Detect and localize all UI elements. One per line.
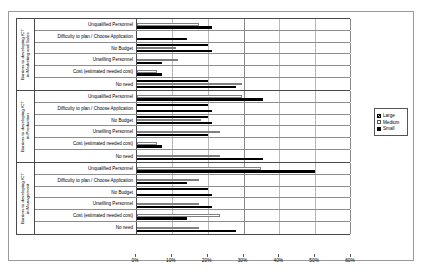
category-label: No need xyxy=(35,150,136,162)
bar-small xyxy=(137,110,212,113)
x-axis-tick-label: 20% xyxy=(202,258,212,263)
gridline xyxy=(350,138,351,149)
category-label: Cost (estimated needed cost) xyxy=(35,66,136,77)
category-label: Unwilling Personnel xyxy=(35,54,136,65)
legend-swatch-medium xyxy=(377,120,381,124)
gridline xyxy=(350,54,351,65)
row-plot xyxy=(136,222,350,234)
legend-item[interactable]: Small xyxy=(377,126,405,131)
legend-item[interactable]: Large xyxy=(377,113,405,118)
category-label: No Budget xyxy=(35,187,136,198)
row-plot xyxy=(136,163,350,174)
bar-stack xyxy=(137,175,350,186)
gridline xyxy=(350,163,351,174)
bar-stack xyxy=(137,126,350,137)
row-plot xyxy=(136,126,350,137)
category-label: Cost (estimated needed cost) xyxy=(35,210,136,221)
category-label-text: No Budget xyxy=(111,46,133,51)
chart-row: No Budget xyxy=(35,187,350,199)
category-label: Unwilling Personnel xyxy=(35,126,136,137)
x-axis-tick-label: 30% xyxy=(238,258,248,263)
legend-label: Small xyxy=(383,126,395,131)
x-axis-tick-label: 50% xyxy=(309,258,319,263)
chart-row: No need xyxy=(35,78,350,90)
row-plot xyxy=(136,19,350,30)
chart-row: Cost (estimated needed cost) xyxy=(35,138,350,150)
row-plot xyxy=(136,187,350,198)
chart-page: Barriers to developing ICT in Marketing … xyxy=(0,0,427,272)
gridline xyxy=(350,222,351,234)
chart-group: Barriers to developing ICT in Marketing … xyxy=(16,18,350,91)
gridline xyxy=(350,19,351,30)
gridline xyxy=(350,198,351,209)
row-plot xyxy=(136,115,350,126)
category-label: Difficulty to plan / Choose Application xyxy=(35,175,136,186)
bar-stack xyxy=(137,43,350,54)
chart-plot-area: Barriers to developing ICT in Marketing … xyxy=(16,18,350,254)
chart-row: Unqualified Personnel xyxy=(35,19,350,31)
category-label-text: Unqualified Personnel xyxy=(88,94,133,99)
category-label: No need xyxy=(35,222,136,234)
chart-row: Cost (estimated needed cost) xyxy=(35,66,350,78)
category-label: No need xyxy=(35,78,136,90)
category-label-text: No need xyxy=(116,225,133,230)
group-axis-label-text: Barriers to developing ICT in Management xyxy=(20,173,30,224)
x-axis: 0%10%20%30%40%50%60% xyxy=(135,254,350,268)
chart-row: Difficulty to plan / Choose Application xyxy=(35,103,350,115)
legend-item[interactable]: Medium xyxy=(377,120,405,125)
chart-row: Unwilling Personnel xyxy=(35,126,350,138)
group-axis-label: Barriers to developing ICT in Production xyxy=(17,91,35,162)
bar-small xyxy=(137,230,236,233)
chart-group: Barriers to developing ICT in Production… xyxy=(16,91,350,163)
gridline xyxy=(350,43,351,54)
category-label-text: Unwilling Personnel xyxy=(93,201,133,206)
bar-small xyxy=(137,134,208,137)
group-axis-label: Barriers to developing ICT in Marketing … xyxy=(17,19,35,90)
row-plot xyxy=(136,66,350,77)
bar-small xyxy=(137,122,212,125)
category-label: No Budget xyxy=(35,43,136,54)
group-rows: Unqualified PersonnelDifficulty to plan … xyxy=(35,19,350,90)
legend-swatch-large xyxy=(377,114,381,118)
category-label-text: Difficulty to plan / Choose Application xyxy=(57,106,133,111)
row-plot xyxy=(136,150,350,162)
category-label: Unwilling Personnel xyxy=(35,198,136,209)
chart-row: No need xyxy=(35,150,350,162)
bar-stack xyxy=(137,103,350,114)
chart-row: No need xyxy=(35,222,350,234)
chart-group: Barriers to developing ICT in Management… xyxy=(16,163,350,235)
category-label-text: No need xyxy=(116,82,133,87)
bar-stack xyxy=(137,91,350,102)
row-plot xyxy=(136,54,350,65)
category-label-text: Cost (estimated needed cost) xyxy=(73,213,133,218)
bar-small xyxy=(137,86,236,89)
chart-row: Difficulty to plan / Choose Application xyxy=(35,31,350,43)
category-label: Unqualified Personnel xyxy=(35,91,136,102)
row-plot xyxy=(136,210,350,221)
gridline xyxy=(350,103,351,114)
bar-small xyxy=(137,50,212,53)
category-label: Difficulty to plan / Choose Application xyxy=(35,103,136,114)
category-label: Unqualified Personnel xyxy=(35,163,136,174)
gridline xyxy=(350,66,351,77)
bar-stack xyxy=(137,187,350,198)
bar-small xyxy=(137,98,263,101)
category-label: No Budget xyxy=(35,115,136,126)
row-plot xyxy=(136,91,350,102)
bar-stack xyxy=(137,54,350,65)
category-label-text: Unwilling Personnel xyxy=(93,57,133,62)
chart-row: No Budget xyxy=(35,43,350,55)
row-plot xyxy=(136,198,350,209)
bar-small xyxy=(137,182,187,185)
gridline xyxy=(350,175,351,186)
legend-label: Large xyxy=(383,113,395,118)
category-label-text: Difficulty to plan / Choose Application xyxy=(57,178,133,183)
bar-small xyxy=(137,194,212,197)
gridline xyxy=(350,115,351,126)
category-label-text: No Budget xyxy=(111,190,133,195)
chart-row: Difficulty to plan / Choose Application xyxy=(35,175,350,187)
group-rows: Unqualified PersonnelDifficulty to plan … xyxy=(35,163,350,234)
category-label: Cost (estimated needed cost) xyxy=(35,138,136,149)
group-axis-label-text: Barriers to developing ICT in Production xyxy=(20,101,30,152)
bar-small xyxy=(137,62,162,65)
